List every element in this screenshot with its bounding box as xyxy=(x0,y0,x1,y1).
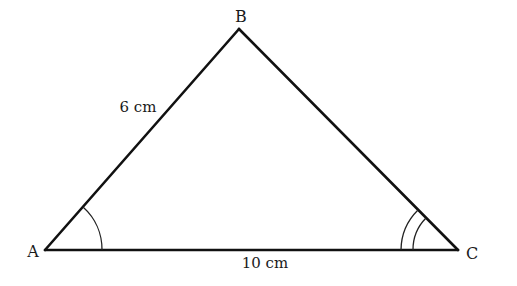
side-label-ab: 6 cm xyxy=(120,98,157,116)
vertex-label-b: B xyxy=(235,7,247,26)
side-ab xyxy=(45,29,239,250)
side-bc xyxy=(239,29,458,250)
vertex-label-a: A xyxy=(26,242,39,261)
vertex-label-c: C xyxy=(466,244,478,263)
angle-arc-a xyxy=(83,207,102,250)
angle-arc-c-inner xyxy=(413,218,426,250)
triangle-diagram: B A C 6 cm 10 cm xyxy=(0,0,517,286)
side-label-ac: 10 cm xyxy=(242,254,288,272)
angle-arc-c-outer xyxy=(401,210,418,250)
